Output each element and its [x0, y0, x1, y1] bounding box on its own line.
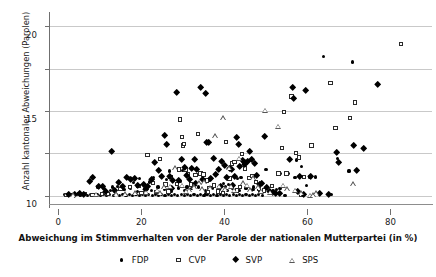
- data-point-fdp: [322, 55, 325, 58]
- x-tick-0: [58, 209, 59, 215]
- data-point-cvp: [328, 81, 332, 85]
- legend-item-cvp[interactable]: CVP: [175, 255, 206, 265]
- data-point-cvp: [128, 185, 132, 189]
- y-tick-5: 5: [45, 153, 50, 154]
- x-axis-title: Abweichung im Stimmverhalten von der Par…: [0, 233, 436, 243]
- data-point-cvp: [180, 135, 184, 139]
- data-point-cvp: [348, 116, 352, 120]
- data-point-fdp: [264, 168, 267, 171]
- gridline-y-15: [50, 69, 432, 70]
- data-point-sps: [70, 192, 76, 197]
- data-point-fdp: [138, 177, 141, 180]
- data-point-sps: [226, 165, 232, 170]
- data-point-cvp: [224, 140, 228, 144]
- data-point-sps: [258, 189, 264, 194]
- data-point-svp: [290, 95, 298, 103]
- data-point-cvp: [193, 173, 197, 177]
- data-point-sps: [250, 175, 256, 180]
- y-tick-label-10: 10: [26, 199, 37, 209]
- data-point-sps: [298, 190, 304, 195]
- data-point-svp: [201, 89, 209, 97]
- open-triangle-icon: [288, 256, 296, 264]
- legend-item-fdp[interactable]: FDP: [118, 255, 149, 265]
- data-point-fdp: [314, 175, 317, 178]
- data-point-sps: [231, 188, 237, 193]
- x-tick-40: [224, 209, 225, 215]
- legend-item-sps[interactable]: SPS: [288, 255, 318, 265]
- data-point-svp: [191, 155, 199, 163]
- data-point-svp: [177, 156, 185, 164]
- data-point-sps: [313, 190, 319, 195]
- data-point-sps: [113, 191, 119, 196]
- data-point-fdp: [239, 176, 242, 179]
- x-tick-80: [390, 209, 391, 215]
- data-point-cvp: [182, 142, 186, 146]
- data-point-cvp: [284, 171, 288, 175]
- legend-label-sps: SPS: [302, 255, 318, 265]
- data-point-sps: [122, 191, 128, 196]
- data-point-fdp: [300, 165, 303, 168]
- gridline-y-20: [50, 26, 432, 27]
- data-point-cvp: [280, 146, 284, 150]
- data-point-cvp: [297, 155, 301, 159]
- y-tick-20: 20: [45, 26, 50, 27]
- data-point-sps: [236, 156, 242, 161]
- data-point-sps: [267, 190, 273, 195]
- plot-area: 05101520 020406080: [50, 18, 432, 204]
- data-point-svp: [333, 149, 341, 157]
- legend-label-cvp: CVP: [189, 255, 206, 265]
- y-tick-label-20: 20: [26, 30, 37, 40]
- data-point-cvp: [206, 190, 210, 194]
- data-point-sps: [284, 186, 290, 191]
- data-point-sps: [179, 183, 185, 188]
- data-point-svp: [335, 159, 343, 167]
- data-point-sps: [183, 189, 189, 194]
- data-point-sps: [350, 181, 356, 186]
- filled-diamond-icon: [232, 256, 240, 264]
- y-tick-10: 10: [45, 111, 50, 112]
- data-point-cvp: [333, 126, 337, 130]
- x-tick-label-40: 40: [219, 217, 230, 227]
- data-point-cvp: [196, 132, 200, 136]
- x-tick-label-0: 0: [56, 217, 61, 227]
- y-tick-0: 0: [45, 196, 50, 197]
- data-point-svp: [172, 89, 180, 97]
- legend-label-fdp: FDP: [132, 255, 149, 265]
- data-point-fdp: [347, 169, 350, 172]
- open-square-icon: [175, 256, 183, 264]
- data-point-cvp: [353, 100, 357, 104]
- data-point-fdp: [351, 60, 354, 63]
- chart-legend: FDPCVPSVPSPS: [0, 255, 436, 265]
- x-tick-label-60: 60: [302, 217, 313, 227]
- data-point-svp: [302, 87, 310, 95]
- data-point-sps: [212, 133, 218, 138]
- data-point-sps: [247, 187, 253, 192]
- data-point-cvp: [178, 117, 182, 121]
- data-point-cvp: [145, 153, 149, 157]
- x-tick-label-20: 20: [136, 217, 147, 227]
- data-point-svp: [196, 84, 204, 92]
- data-point-cvp: [309, 143, 313, 147]
- data-point-sps: [132, 190, 138, 195]
- data-point-svp: [210, 155, 218, 163]
- data-point-cvp: [221, 191, 225, 195]
- data-point-cvp: [399, 42, 403, 46]
- data-point-cvp: [238, 185, 242, 189]
- data-point-sps: [220, 115, 226, 120]
- data-point-svp: [353, 167, 361, 175]
- data-point-cvp: [276, 171, 280, 175]
- gridline-y-10: [50, 111, 432, 112]
- data-point-svp: [350, 142, 358, 150]
- legend-item-svp[interactable]: SVP: [232, 255, 263, 265]
- data-point-fdp: [283, 194, 286, 197]
- data-point-sps: [157, 190, 163, 195]
- y-tick-label-15: 15: [26, 114, 37, 124]
- data-point-svp: [374, 81, 382, 89]
- data-point-fdp: [305, 184, 308, 187]
- data-point-svp: [260, 133, 268, 141]
- data-point-sps: [172, 165, 178, 170]
- data-point-sps: [93, 192, 99, 197]
- x-tick-60: [307, 209, 308, 215]
- data-point-cvp: [282, 110, 286, 114]
- data-point-sps: [167, 184, 173, 189]
